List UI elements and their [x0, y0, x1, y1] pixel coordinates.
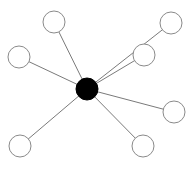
edge-hub-leaf-bottom-left	[20, 89, 87, 146]
leaf-bottom-right-node	[132, 135, 154, 157]
hub-node	[76, 78, 98, 100]
edge-hub-leaf-top-right	[87, 23, 171, 89]
leaf-top-left-node	[43, 11, 65, 33]
leaf-right-node	[163, 101, 185, 123]
leaf-top-right-node	[160, 12, 182, 34]
edge-hub-leaf-bottom-right	[87, 89, 143, 146]
graph-canvas	[0, 0, 196, 169]
leaf-left-node	[8, 46, 30, 68]
hub-node-group	[76, 78, 98, 100]
edge-hub-leaf-right	[87, 89, 174, 112]
leaf-bottom-left-node	[9, 135, 31, 157]
leaf-inner-right-node	[133, 44, 155, 66]
star-graph-diagram	[0, 0, 196, 169]
